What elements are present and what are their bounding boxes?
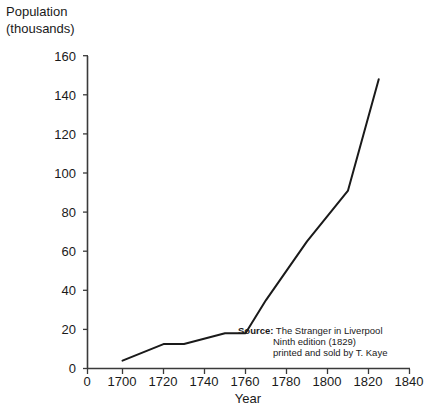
data-line-liverpool-population [123, 79, 379, 361]
x-tick-marks [88, 369, 410, 374]
